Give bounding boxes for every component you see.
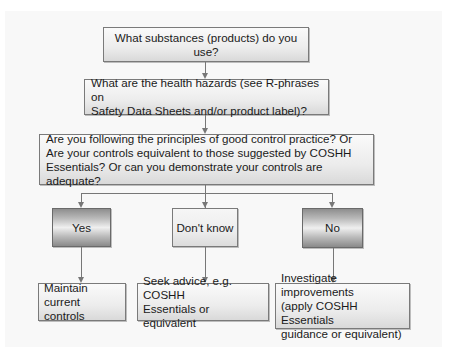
answer-yes-label: Yes bbox=[72, 221, 91, 235]
action-seek-advice-line2: Essentials or equivalent bbox=[143, 302, 263, 330]
connector-q2-q3 bbox=[205, 115, 206, 128]
connector-dont-know-action bbox=[205, 247, 206, 277]
answer-dont-know-label: Don't know bbox=[177, 221, 234, 235]
connector-branch-yes bbox=[81, 193, 82, 202]
action-investigate-line3: guidance or equivalent) bbox=[281, 327, 404, 341]
question-health-hazards-line1: What are the health hazards (see R-phras… bbox=[91, 76, 323, 104]
question-controls-line1: Are you following the principles of good… bbox=[46, 132, 368, 146]
action-maintain-line1: Maintain current bbox=[44, 281, 120, 309]
action-maintain-line2: controls bbox=[44, 309, 120, 323]
action-investigate-line1: Investigate improvements bbox=[281, 271, 404, 299]
connector-branch-horizontal bbox=[81, 193, 333, 194]
action-investigate-line2: (apply COSHH Essentials bbox=[281, 299, 404, 327]
connector-branch-no bbox=[332, 193, 333, 202]
answer-no-label: No bbox=[325, 221, 340, 235]
question-substances-text: What substances (products) do you use? bbox=[104, 31, 308, 59]
connector-yes-action bbox=[81, 247, 82, 277]
answer-dont-know-box: Don't know bbox=[172, 208, 238, 247]
action-investigate-box: Investigate improvements (apply COSHH Es… bbox=[275, 283, 410, 329]
question-health-hazards-line2: Safety Data Sheets and/or product label)… bbox=[91, 104, 323, 118]
question-health-hazards-box: What are the health hazards (see R-phras… bbox=[84, 79, 329, 115]
question-controls-line3: Essentials? Or can you demonstrate your … bbox=[46, 160, 368, 188]
action-maintain-box: Maintain current controls bbox=[38, 283, 126, 321]
action-seek-advice-line1: Seek advice, e.g. COSHH bbox=[143, 274, 263, 302]
question-substances-box: What substances (products) do you use? bbox=[103, 27, 309, 62]
answer-yes-box: Yes bbox=[52, 208, 111, 247]
answer-no-box: No bbox=[302, 208, 363, 248]
action-seek-advice-box: Seek advice, e.g. COSHH Essentials or eq… bbox=[137, 283, 269, 321]
question-controls-box: Are you following the principles of good… bbox=[39, 134, 374, 185]
question-controls-line2: Are your controls equivalent to those su… bbox=[46, 146, 368, 160]
